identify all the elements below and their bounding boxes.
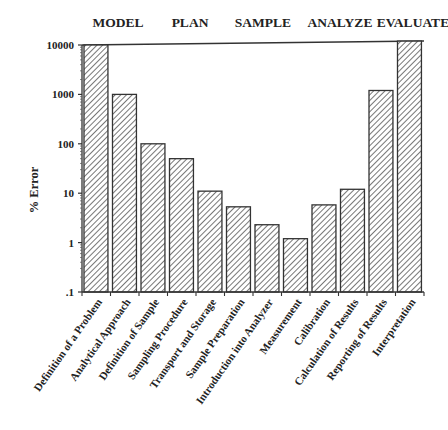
y-axis-label: % Error (27, 166, 41, 213)
phase-labels: MODELPLANSAMPLEANALYZEEVALUATE (92, 15, 448, 30)
y-tick-label: 1000 (52, 88, 75, 100)
phase-label: PLAN (172, 15, 209, 30)
phase-label: EVALUATE (377, 15, 448, 30)
y-tick-label: 10000 (47, 39, 75, 51)
y-tick-label: 10 (63, 187, 75, 199)
bar (227, 207, 251, 292)
bar (369, 90, 393, 292)
bar (255, 225, 279, 292)
bar (113, 94, 137, 292)
bar (141, 144, 165, 292)
bar (284, 239, 308, 292)
top-frame-line (82, 41, 424, 45)
y-tick-label: 1 (69, 237, 75, 249)
x-axis: Definition of a ProblemAnalytical Approa… (31, 292, 424, 406)
bar (398, 41, 422, 292)
phase-label: ANALYZE (308, 15, 373, 30)
bar (312, 205, 336, 292)
phase-label: SAMPLE (235, 15, 291, 30)
y-tick-label: .1 (66, 286, 74, 298)
bar (84, 45, 108, 292)
phase-label: MODEL (92, 15, 143, 30)
bar (170, 159, 194, 292)
bar (341, 189, 365, 292)
bar-chart: MODELPLANSAMPLEANALYZEEVALUATE 100001000… (0, 0, 448, 430)
bar (198, 191, 222, 292)
y-tick-label: 100 (58, 138, 75, 150)
bars (84, 41, 421, 292)
